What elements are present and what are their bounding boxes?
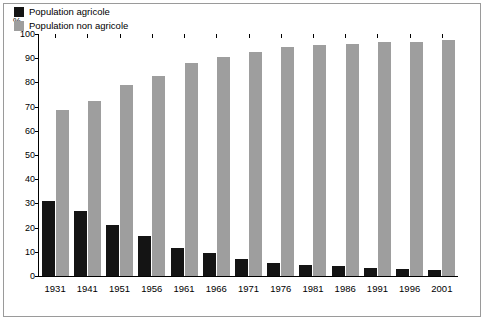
legend-item-population-agricole: Population agricole	[14, 7, 128, 17]
x-axis-tick-mark	[120, 34, 121, 38]
x-axis-tick-label: 1991	[367, 283, 388, 294]
bar	[203, 253, 216, 276]
x-axis-tick-label: 1981	[302, 283, 323, 294]
bar	[249, 52, 262, 276]
bar-group	[265, 34, 297, 276]
bar-group	[168, 34, 200, 276]
bar-group	[39, 34, 71, 276]
plot-area: 0102030405060708090100 19311941195119561…	[38, 34, 458, 277]
x-axis-tick-label: 1971	[238, 283, 259, 294]
x-axis-tick-mark	[313, 34, 314, 38]
x-axis-tick-label: 1956	[141, 283, 162, 294]
bar	[396, 269, 409, 276]
bar-group	[200, 34, 232, 276]
bar	[346, 44, 359, 276]
y-axis-tick-label: 30	[25, 199, 35, 208]
bar	[152, 76, 165, 276]
bar	[410, 42, 423, 276]
x-axis-tick-mark	[55, 34, 56, 38]
bar	[332, 266, 345, 276]
legend-label-population-agricole: Population agricole	[29, 7, 110, 17]
bar	[185, 63, 198, 276]
x-axis-tick-mark	[410, 34, 411, 38]
y-axis-tick-label: 20	[25, 223, 35, 232]
y-axis-tick-mark	[35, 276, 39, 277]
bar	[267, 263, 280, 276]
y-axis-tick-label: 100	[20, 30, 35, 39]
x-axis-tick-mark	[377, 34, 378, 38]
bar	[313, 45, 326, 276]
y-axis-tick-label: 90	[25, 54, 35, 63]
bar	[364, 268, 377, 276]
bar	[106, 225, 119, 276]
x-axis-tick-label: 1961	[173, 283, 194, 294]
x-axis-tick-mark	[216, 34, 217, 38]
y-axis-tick-label: 50	[25, 151, 35, 160]
bar	[281, 47, 294, 276]
x-axis-tick-mark	[442, 34, 443, 38]
x-axis-tick-mark	[345, 34, 346, 38]
bar-group	[329, 34, 361, 276]
bar	[138, 236, 151, 276]
bar	[42, 201, 55, 276]
x-axis-tick-mark	[184, 34, 185, 38]
bar-group	[232, 34, 264, 276]
bar-group	[71, 34, 103, 276]
bar	[171, 248, 184, 276]
chart-container: % Population agricole Population non agr…	[0, 0, 485, 322]
x-axis-tick-label: 1996	[399, 283, 420, 294]
bar	[88, 101, 101, 276]
y-axis-tick-label: 80	[25, 78, 35, 87]
x-axis-tick-label: 1986	[335, 283, 356, 294]
x-axis-tick-label: 1941	[77, 283, 98, 294]
bar-group	[297, 34, 329, 276]
bar	[120, 85, 133, 276]
bar	[217, 57, 230, 276]
legend-label-population-non-agricole: Population non agricole	[29, 21, 128, 31]
x-axis-tick-label: 2001	[431, 283, 452, 294]
bar	[74, 211, 87, 276]
x-axis-tick-mark	[87, 34, 88, 38]
y-axis-tick-label: 10	[25, 247, 35, 256]
bar	[56, 110, 69, 276]
x-axis-tick-mark	[281, 34, 282, 38]
bar-group	[426, 34, 458, 276]
x-axis-tick-label: 1966	[206, 283, 227, 294]
bar	[442, 40, 455, 276]
bar-group	[361, 34, 393, 276]
x-axis-tick-label: 1951	[109, 283, 130, 294]
bar	[428, 270, 441, 276]
bar	[299, 265, 312, 276]
x-axis-tick-mark	[152, 34, 153, 38]
x-axis-tick-label: 1976	[270, 283, 291, 294]
legend-swatch-population-agricole	[14, 7, 24, 17]
bar	[235, 259, 248, 276]
bar-group	[136, 34, 168, 276]
bar	[378, 42, 391, 276]
x-axis-tick-label: 1931	[45, 283, 66, 294]
bar-group	[103, 34, 135, 276]
bar-group	[394, 34, 426, 276]
x-axis-tick-mark	[249, 34, 250, 38]
y-axis-tick-label: 60	[25, 126, 35, 135]
y-axis-tick-label: 40	[25, 175, 35, 184]
y-axis-tick-label: 70	[25, 102, 35, 111]
